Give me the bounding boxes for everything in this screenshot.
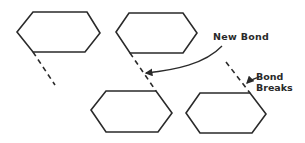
new-bond-label: New Bond: [213, 31, 269, 42]
bond-breaks-line1: Bond: [256, 71, 293, 82]
hexagon-top-middle: [116, 13, 197, 53]
hexagon-bottom-middle: [91, 91, 172, 132]
hexagon-top-left: [17, 12, 100, 52]
arrow-new-bond: [146, 46, 222, 73]
bond-dash-breaking: [226, 62, 250, 93]
bond-breaks-line2: Breaks: [256, 82, 293, 93]
bond-breaks-label: Bond Breaks: [256, 71, 293, 93]
bond-dash-top-left: [33, 52, 55, 85]
hexagon-bottom-right: [186, 93, 266, 133]
